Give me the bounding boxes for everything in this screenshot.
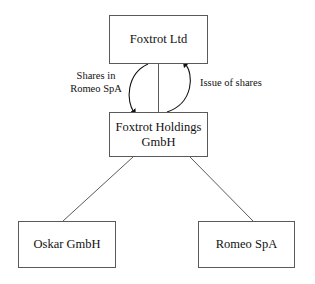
node-oskar-gmbh[interactable]: Oskar GmbH bbox=[18, 221, 116, 268]
node-foxtrot-ltd[interactable]: Foxtrot Ltd bbox=[109, 15, 208, 64]
edge-holdings-romeo bbox=[190, 157, 253, 221]
node-foxtrot-holdings-label: Foxtrot Holdings GmbH bbox=[112, 120, 206, 150]
edge-label-shares-in-romeo: Shares in Romeo SpA bbox=[62, 70, 130, 96]
edge-label-issue-of-shares: Issue of shares bbox=[200, 77, 290, 90]
node-romeo-spa-label: Romeo SpA bbox=[212, 237, 281, 252]
node-romeo-spa[interactable]: Romeo SpA bbox=[198, 221, 295, 268]
node-foxtrot-holdings[interactable]: Foxtrot Holdings GmbH bbox=[109, 112, 208, 157]
node-oskar-gmbh-label: Oskar GmbH bbox=[29, 237, 104, 252]
edge-shares-in-romeo-arrow bbox=[129, 64, 148, 112]
edge-issue-of-shares-arrow bbox=[167, 64, 190, 112]
edge-holdings-oskar bbox=[63, 157, 133, 221]
node-foxtrot-ltd-label: Foxtrot Ltd bbox=[126, 32, 191, 47]
diagram-canvas: Foxtrot Ltd Foxtrot Holdings GmbH Oskar … bbox=[0, 0, 315, 284]
